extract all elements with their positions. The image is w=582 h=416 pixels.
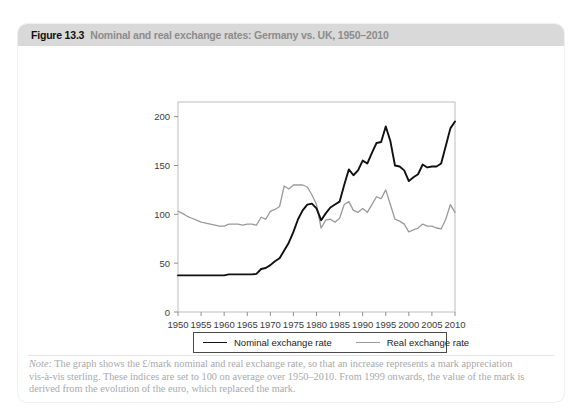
- x-axis-tick-label: 2010: [444, 319, 465, 330]
- note-line-3: derived from the evolution of the euro, …: [29, 383, 551, 396]
- x-axis-tick-label: 1960: [214, 319, 235, 330]
- y-axis-tick-label: 100: [154, 209, 170, 220]
- legend-swatch-nominal-icon: [203, 342, 227, 343]
- figure-panel: Figure 13.3 Nominal and real exchange ra…: [18, 24, 564, 402]
- legend-item-real: Real exchange rate: [356, 333, 469, 352]
- note-text-1: The graph shows the £/mark nominal and r…: [52, 358, 512, 369]
- legend-label-real: Real exchange rate: [387, 337, 469, 348]
- figure-notes: Note: The graph shows the £/mark nominal…: [29, 358, 551, 402]
- figure-caption: Nominal and real exchange rates: Germany…: [90, 29, 388, 41]
- x-axis-tick-label: 1950: [167, 319, 188, 330]
- exchange-rate-line-chart: 0501001502001950195519601965197019751980…: [18, 46, 564, 334]
- x-axis-tick-label: 1980: [306, 319, 327, 330]
- legend-swatch-real-icon: [356, 342, 380, 343]
- footnote-divider: [28, 355, 554, 356]
- x-axis-tick-label: 1955: [191, 319, 212, 330]
- x-axis-tick-label: 1965: [237, 319, 258, 330]
- series-line-nominal: [178, 122, 455, 276]
- figure-titlebar: Figure 13.3 Nominal and real exchange ra…: [18, 24, 564, 46]
- y-axis-tick-label: 200: [154, 111, 170, 122]
- chart-legend: Nominal exchange rate Real exchange rate: [193, 332, 447, 353]
- figure-number: Figure 13.3: [31, 29, 84, 41]
- x-axis-tick-label: 2000: [398, 319, 419, 330]
- y-axis-tick-label: 150: [154, 160, 170, 171]
- x-axis-tick-label: 1970: [260, 319, 281, 330]
- chart-area: 0501001502001950195519601965197019751980…: [18, 46, 564, 334]
- note-line-1: Note: The graph shows the £/mark nominal…: [29, 358, 551, 371]
- x-axis-tick-label: 1975: [283, 319, 304, 330]
- x-axis-tick-label: 1995: [375, 319, 396, 330]
- x-axis-tick-label: 2005: [421, 319, 442, 330]
- note-lead-label: Note:: [29, 358, 52, 369]
- x-axis-tick-label: 1985: [329, 319, 350, 330]
- note-line-2: vis-à-vis sterling. These indices are se…: [29, 371, 551, 384]
- y-axis-tick-label: 0: [165, 307, 170, 318]
- legend-label-nominal: Nominal exchange rate: [234, 337, 332, 348]
- x-axis-tick-label: 1990: [352, 319, 373, 330]
- legend-item-nominal: Nominal exchange rate: [203, 333, 332, 352]
- y-axis-tick-label: 50: [159, 258, 170, 269]
